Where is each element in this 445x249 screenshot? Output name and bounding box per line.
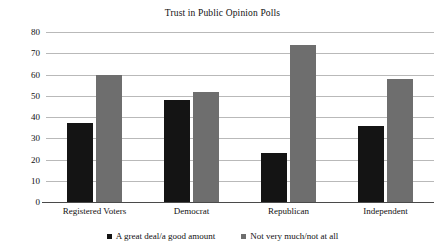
y-axis-tick-label: 10 [0,176,40,185]
bar [358,126,384,203]
x-axis-tick-label: Independent [363,205,407,217]
x-axis-tick-label: Republican [268,205,309,217]
bar [193,92,219,203]
legend-label: A great deal/a good amount [116,231,215,242]
y-axis-tick-label: 20 [0,155,40,164]
x-axis: Registered VotersDemocratRepublicanIndep… [46,205,434,221]
plot-area [46,32,434,202]
chart-title: Trust in Public Opinion Polls [0,8,445,18]
x-axis-tick-label: Democrat [174,205,209,217]
x-axis-baseline [42,202,434,203]
bar-chart-figure: Trust in Public Opinion Polls 0102030405… [0,0,445,249]
legend-swatch-icon [107,234,112,239]
y-axis-tick-label: 80 [0,28,40,37]
bar [387,79,413,202]
y-axis: 01020304050607080 [0,32,40,202]
chart-legend: A great deal/a good amountNot very much/… [0,231,445,242]
legend-swatch-icon [241,234,246,239]
bar-group [143,32,240,202]
bar-group [46,32,143,202]
bar [164,100,190,202]
x-axis-tick-label: Registered Voters [63,205,126,217]
bar [67,123,93,202]
bar [96,75,122,203]
y-axis-tick-label: 50 [0,91,40,100]
bar [290,45,316,202]
legend-item: Not very much/not at all [241,231,338,242]
y-axis-tick-label: 30 [0,134,40,143]
bar-group [240,32,337,202]
y-axis-tick-label: 40 [0,113,40,122]
bar-group [337,32,434,202]
y-axis-tick-label: 70 [0,49,40,58]
y-axis-tick-label: 60 [0,70,40,79]
legend-item: A great deal/a good amount [107,231,215,242]
y-axis-tick-label: 0 [0,198,40,207]
legend-label: Not very much/not at all [250,231,338,242]
bar [261,153,287,202]
